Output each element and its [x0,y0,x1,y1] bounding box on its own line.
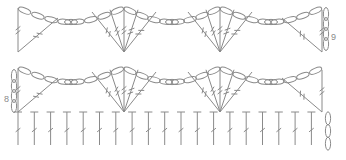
treble-stitch-icon [282,18,322,52]
treble-stitch-icon [282,78,322,112]
stitch-bar-icon [106,87,107,93]
chain-stitch-icon [31,71,45,80]
chain-stitch-icon [97,11,111,20]
row-label-8: 8 [4,94,9,104]
treble-stitch-icon [206,70,220,112]
chain-stitch-icon [97,71,111,80]
stitch-bar-icon [33,96,39,97]
chain-stitch-icon [183,16,197,24]
chain-stitch-icon [147,76,161,84]
chain-stitch-icon [11,100,16,113]
chain-stitch-icon [325,112,330,125]
treble-stitch-icon [220,12,252,52]
stitch-bar-icon [116,30,119,35]
chain-stitch-icon [219,66,233,76]
chain-stitch-icon [123,6,137,16]
chain-stitch-icon [207,6,221,16]
treble-stitch-icon [206,10,220,52]
stitch-bar-icon [211,27,214,32]
chain-stitch-icon [110,6,124,16]
stitch-chart [0,0,346,160]
stitch-bar-icon [106,27,107,33]
stitch-bar-icon [37,33,43,34]
stitch-bar-icon [115,27,118,32]
stitch-bar-icon [37,93,43,94]
chain-stitch-icon [296,11,310,20]
chain-stitch-icon [31,11,45,20]
chain-stitch-icon [219,6,233,16]
chain-stitch-icon [18,66,32,76]
chain-stitch-icon [309,6,323,16]
chain-stitch-icon [323,38,328,51]
chain-stitch-icon [232,11,246,20]
chain-stitch-icon [283,76,297,84]
treble-stitch-icon [220,72,252,112]
chain-stitch-icon [207,66,221,76]
treble-stitch-icon [18,18,58,52]
stitch-bar-icon [205,91,206,97]
chain-stitch-icon [18,6,32,16]
treble-stitch-icon [110,10,124,52]
chain-stitch-icon [309,66,323,76]
stitch-bar-icon [115,87,118,92]
treble-stitch-icon [18,78,58,112]
chain-stitch-icon [245,76,259,84]
treble-stitch-icon [92,72,124,112]
stitch-bar-icon [212,30,215,35]
chain-stitch-icon [147,16,161,24]
stitch-bar-icon [33,36,39,37]
chain-stitch-icon [110,66,124,76]
chain-stitch-icon [325,125,330,138]
chain-stitch-icon [245,16,259,24]
treble-stitch-icon [110,70,124,112]
chain-stitch-icon [283,16,297,24]
stitch-bar-icon [205,31,206,37]
stitch-bar-icon [202,87,203,93]
chain-stitch-icon [325,137,330,150]
chain-stitch-icon [123,66,137,76]
stitch-bar-icon [109,91,110,97]
treble-stitch-icon [92,12,124,52]
row-label-9: 9 [331,32,336,42]
stitch-bar-icon [212,90,215,95]
chain-stitch-icon [183,76,197,84]
stitch-bar-icon [211,87,214,92]
stitch-bar-icon [109,31,110,37]
stitch-bar-icon [116,90,119,95]
stitch-bar-icon [202,27,203,33]
chain-stitch-icon [296,71,310,80]
chain-stitch-icon [232,71,246,80]
crochet-diagram: 9 8 [0,0,346,160]
